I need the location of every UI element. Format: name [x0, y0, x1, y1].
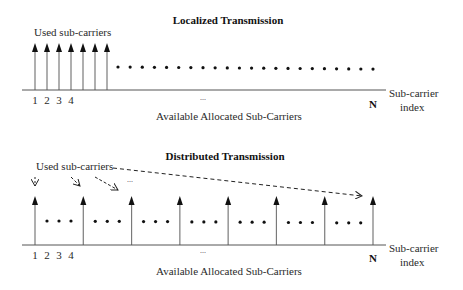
used-subcarrier-arrow	[32, 196, 38, 245]
used-subcarrier-arrow	[68, 43, 74, 90]
idle-subcarrier-dot	[311, 221, 314, 224]
idle-subcarrier-dot	[226, 66, 229, 69]
idle-subcarrier-dot	[45, 219, 48, 222]
used-subcarrier-arrow	[56, 43, 62, 90]
pointer-arrow-long	[113, 168, 362, 196]
index-label: 4	[68, 249, 74, 261]
pointer-arrow-3	[95, 177, 118, 190]
idle-subcarrier-dot	[262, 67, 265, 70]
idle-subcarrier-dot	[201, 66, 204, 69]
idle-subcarrier-dot	[142, 220, 145, 223]
localized-index-labels: 1234	[32, 94, 74, 106]
idle-subcarrier-dot	[286, 67, 289, 70]
index-label: 3	[56, 249, 62, 261]
idle-subcarrier-dot	[274, 67, 277, 70]
idle-subcarrier-dot	[153, 66, 156, 69]
ofdma-subcarrier-diagram: Localized Transmission Used sub-carriers…	[0, 0, 463, 290]
idle-subcarrier-dot	[166, 220, 169, 223]
idle-subcarrier-dot	[299, 221, 302, 224]
distributed-section: Distributed Transmission Used sub-carrie…	[22, 150, 439, 277]
distributed-caption: Available Allocated Sub-Carriers	[156, 265, 302, 277]
localized-used-label: Used sub-carriers	[34, 26, 111, 38]
idle-subcarrier-dot	[214, 66, 217, 69]
idle-subcarrier-dot	[154, 220, 157, 223]
distributed-top-ellipsis: ...	[127, 175, 133, 184]
index-label: 1	[32, 249, 38, 261]
distributed-axis-label-2: index	[400, 256, 425, 268]
localized-axis-label-1: Sub-carrier	[389, 87, 439, 99]
idle-subcarrier-dot	[359, 67, 362, 70]
idle-subcarrier-dot	[69, 219, 72, 222]
used-subcarrier-arrow	[92, 43, 98, 90]
distributed-used-label: Used sub-carriers	[36, 160, 113, 172]
distributed-ellipsis: ...	[200, 246, 206, 255]
idle-subcarrier-dot	[106, 220, 109, 223]
idle-subcarrier-dot	[190, 220, 193, 223]
used-subcarrier-arrow	[129, 196, 135, 245]
idle-subcarrier-dot	[57, 219, 60, 222]
idle-subcarrier-dot	[165, 66, 168, 69]
idle-subcarrier-dot	[335, 67, 338, 70]
used-subcarrier-arrow	[80, 43, 86, 90]
idle-subcarrier-dot	[359, 221, 362, 224]
idle-subcarrier-dot	[311, 67, 314, 70]
idle-subcarrier-dot	[189, 66, 192, 69]
idle-subcarrier-dot	[371, 68, 374, 71]
localized-last-index: N	[369, 98, 377, 110]
localized-section: Localized Transmission Used sub-carriers…	[22, 14, 439, 122]
idle-subcarrier-dot	[214, 220, 217, 223]
used-subcarrier-arrow	[44, 43, 50, 90]
index-label: 2	[44, 249, 50, 261]
idle-subcarrier-dot	[299, 67, 302, 70]
localized-used-subcarriers	[32, 43, 110, 90]
used-subcarrier-arrow	[32, 43, 38, 90]
idle-subcarrier-dot	[323, 67, 326, 70]
localized-caption: Available Allocated Sub-Carriers	[156, 110, 302, 122]
idle-subcarrier-dot	[177, 66, 180, 69]
localized-axis-label-2: index	[400, 101, 425, 113]
idle-subcarrier-dot	[129, 66, 132, 69]
idle-subcarrier-dot	[141, 66, 144, 69]
idle-subcarrier-dot	[238, 66, 241, 69]
idle-subcarrier-dot	[239, 221, 242, 224]
index-label: 3	[56, 94, 62, 106]
distributed-axis-label-1: Sub-carrier	[389, 242, 439, 254]
localized-ellipsis: ...	[200, 93, 206, 102]
idle-subcarrier-dot	[335, 221, 338, 224]
used-subcarrier-arrow	[177, 196, 183, 245]
pointer-arrow-2	[71, 177, 80, 186]
used-subcarrier-arrow	[273, 196, 279, 245]
index-label: 2	[44, 94, 50, 106]
used-subcarrier-arrow	[322, 196, 328, 245]
distributed-index-labels: 1234	[32, 249, 74, 261]
idle-subcarrier-dot	[347, 221, 350, 224]
used-subcarrier-arrow	[80, 196, 86, 245]
idle-subcarrier-dot	[287, 221, 290, 224]
idle-subcarrier-dot	[94, 220, 97, 223]
used-subcarrier-arrow	[104, 43, 110, 90]
index-label: 1	[32, 94, 38, 106]
distributed-title: Distributed Transmission	[165, 150, 284, 162]
localized-title: Localized Transmission	[173, 14, 284, 26]
distributed-last-index: N	[369, 252, 377, 264]
used-subcarrier-arrow	[225, 196, 231, 245]
idle-subcarrier-dot	[118, 220, 121, 223]
localized-idle-subcarriers	[116, 65, 374, 70]
used-subcarrier-arrow	[370, 196, 376, 245]
idle-subcarrier-dot	[250, 67, 253, 70]
idle-subcarrier-dot	[251, 221, 254, 224]
idle-subcarrier-dot	[347, 67, 350, 70]
index-label: 4	[68, 94, 74, 106]
idle-subcarrier-dot	[263, 221, 266, 224]
idle-subcarrier-dot	[116, 65, 119, 68]
distributed-idle-subcarriers	[45, 219, 362, 224]
idle-subcarrier-dot	[202, 220, 205, 223]
